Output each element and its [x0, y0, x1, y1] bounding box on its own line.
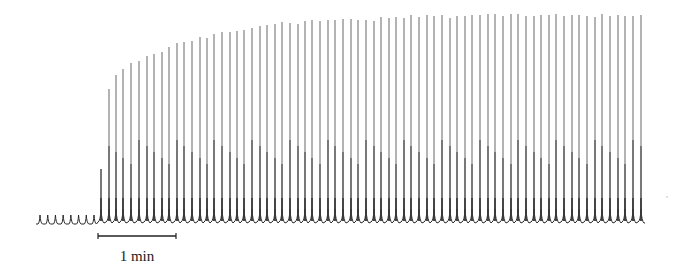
- baseline-trace: [36, 209, 645, 224]
- trace-figure: [0, 0, 676, 280]
- stray-dot: [666, 196, 668, 198]
- recording-trace: [36, 14, 645, 224]
- time-scale-bar: [98, 233, 176, 239]
- scale-bar-label: 1 min: [98, 248, 176, 265]
